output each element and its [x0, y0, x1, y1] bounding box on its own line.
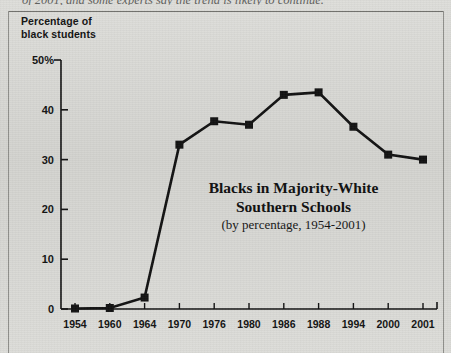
data-point-1994: [349, 123, 357, 131]
x-tick-label-1976: 1976: [203, 318, 226, 330]
data-point-1988: [315, 88, 323, 96]
x-tick-label-1986: 1986: [272, 318, 295, 330]
y-tick-label-10: 10: [18, 253, 54, 265]
data-point-1980: [245, 121, 253, 129]
figure-page: of 2001, and some experts say the trend …: [0, 0, 451, 353]
data-point-1976: [210, 117, 218, 125]
x-tick-label-1988: 1988: [307, 318, 330, 330]
data-point-1970: [175, 141, 183, 149]
x-tick-label-1980: 1980: [237, 318, 260, 330]
data-point-2001: [419, 156, 427, 164]
data-point-2000: [384, 151, 392, 159]
x-tick-label-1994: 1994: [342, 318, 365, 330]
y-tick-label-50: 50%: [18, 54, 54, 66]
data-point-1964: [141, 294, 149, 302]
x-tick-label-2001: 2001: [411, 318, 434, 330]
x-tick-label-1960: 1960: [98, 318, 121, 330]
chart-subtitle: (by percentage, 1954-2001): [186, 217, 401, 233]
line-chart: [0, 0, 451, 353]
x-tick-label-1954: 1954: [63, 318, 86, 330]
chart-title-line2: Southern Schools: [186, 197, 401, 216]
y-tick-label-30: 30: [18, 154, 54, 166]
chart-title-line1: Blacks in Majority-White: [186, 178, 401, 197]
y-tick-label-0: 0: [18, 303, 54, 315]
x-tick-label-1964: 1964: [133, 318, 156, 330]
y-tick-label-40: 40: [18, 104, 54, 116]
chart-title: Blacks in Majority-White Southern School…: [186, 178, 401, 216]
x-tick-label-2000: 2000: [377, 318, 400, 330]
y-tick-label-20: 20: [18, 203, 54, 215]
data-point-1954: [71, 305, 79, 313]
x-tick-label-1970: 1970: [168, 318, 191, 330]
data-point-1986: [280, 91, 288, 99]
data-point-1960: [106, 304, 114, 312]
